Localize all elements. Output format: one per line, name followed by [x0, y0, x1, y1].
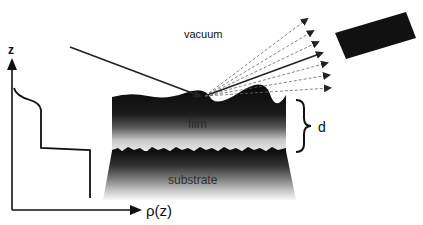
detector	[335, 12, 416, 59]
thickness-brace	[296, 100, 311, 152]
reflected-rays	[205, 19, 330, 96]
z-axis-arrow-icon	[7, 58, 17, 70]
rho-axis-label: ρ(z)	[146, 202, 172, 219]
substrate-label: substrate	[168, 173, 218, 187]
z-axis-label: z	[8, 43, 14, 57]
incident-ray	[70, 47, 200, 96]
reflectivity-diagram: film substrate vacuum d z ρ(z)	[0, 0, 423, 225]
rho-axis-arrow-icon	[130, 205, 142, 215]
density-profile-curve	[14, 88, 90, 198]
vacuum-label: vacuum	[184, 28, 223, 40]
film-label: film	[188, 117, 207, 131]
thickness-label: d	[318, 119, 326, 135]
